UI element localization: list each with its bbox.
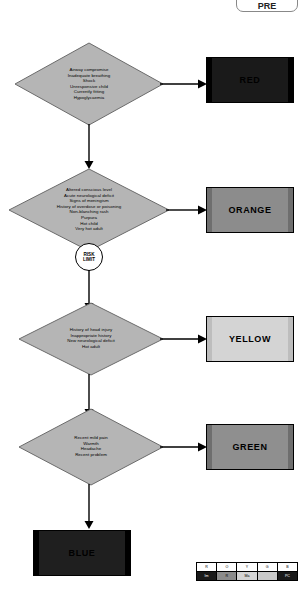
decision-node-green[interactable]: Recent mild pain Warmth Headache Recent … [18, 408, 164, 486]
outcome-box-yellow-left-bar [207, 317, 212, 361]
outcome-box-red-right-bar [288, 58, 293, 102]
outcome-box-orange[interactable]: ORANGE [206, 187, 294, 233]
legend-header-cell: R [197, 563, 217, 572]
outcome-box-yellow-right-bar [288, 317, 293, 361]
outcome-label-yellow: YELLOW [229, 334, 271, 344]
outcome-box-orange-left-bar [207, 188, 212, 232]
connector-orange-horizontal [166, 201, 208, 219]
diamond-shape-yellow [18, 302, 164, 376]
connector-red-horizontal [160, 75, 208, 93]
legend-value-cell: Im [197, 572, 217, 581]
outcome-box-red[interactable]: RED [206, 57, 294, 103]
legend-header-cell: G [257, 563, 277, 572]
outcome-box-blue-left-bar [34, 531, 39, 575]
legend-value-cell: R [217, 572, 237, 581]
legend-value-cell [257, 572, 277, 581]
decision-node-red[interactable]: Airway compromise Inadequate breathing S… [14, 42, 164, 126]
legend-header-cell: O [217, 563, 237, 572]
connector-green-horizontal [160, 438, 208, 456]
diamond-shape-green [18, 408, 164, 486]
outcome-label-red: RED [240, 75, 261, 85]
legend-header-cell: B [277, 563, 297, 572]
outcome-box-yellow[interactable]: YELLOW [206, 316, 294, 362]
top-pill-text: PRE [258, 2, 277, 11]
decision-node-orange[interactable]: Altered conscious level Acute neurologic… [8, 168, 170, 252]
outcome-box-orange-right-bar [288, 188, 293, 232]
risk-limit-marker: RISK LIMIT [75, 243, 103, 271]
priority-legend-table: R O Y G B Im R Ma PC [196, 562, 298, 581]
connector-yellow-horizontal [160, 330, 208, 348]
diamond-shape-red [14, 42, 164, 126]
outcome-box-blue[interactable]: BLUE [33, 530, 131, 576]
legend-value-cell: Ma [237, 572, 257, 581]
outcome-box-red-left-bar [207, 58, 212, 102]
legend-header-cell: Y [237, 563, 257, 572]
outcome-box-green-right-bar [288, 425, 293, 469]
connector-red-to-orange [81, 124, 97, 170]
legend-value-cell: PC [277, 572, 297, 581]
legend-header-row: R O Y G B [197, 563, 298, 572]
top-pill-label: PRE [236, 0, 298, 12]
outcome-box-green-left-bar [207, 425, 212, 469]
outcome-label-green: GREEN [232, 442, 267, 452]
outcome-label-orange: ORANGE [228, 205, 271, 215]
flowchart-canvas: PRE Airway compromise Inadequate breathi… [0, 0, 305, 602]
risk-limit-line2: LIMIT [83, 257, 95, 262]
outcome-box-green[interactable]: GREEN [206, 424, 294, 470]
outcome-label-blue: BLUE [69, 548, 96, 558]
decision-node-yellow[interactable]: History of head injury Inappropriate his… [18, 302, 164, 376]
outcome-box-blue-right-bar [125, 531, 130, 575]
legend-value-row: Im R Ma PC [197, 572, 298, 581]
connector-green-to-blue [81, 484, 97, 530]
diamond-shape-orange [8, 168, 170, 252]
